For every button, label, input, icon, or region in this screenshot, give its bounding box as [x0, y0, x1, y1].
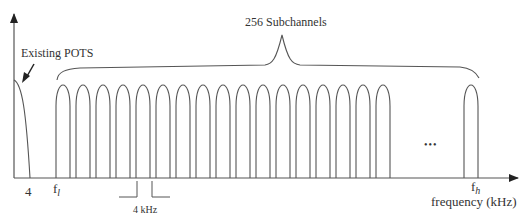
subchannel-hump: [296, 85, 310, 178]
subchannels-brace: [57, 35, 479, 80]
subchannel-hump: [316, 85, 330, 178]
pots-label: Existing POTS: [21, 46, 93, 60]
x-axis-label: frequency (kHz): [431, 194, 517, 209]
subchannel-hump: [136, 85, 150, 178]
subchannel-hump: [76, 85, 90, 178]
tick-label-f-low: fl: [53, 181, 60, 198]
ellipsis-more-subchannels: •••: [424, 139, 438, 150]
subchannel-hump: [236, 85, 250, 178]
subchannel-hump: [116, 85, 130, 178]
pots-band-curve: [14, 80, 30, 178]
subchannel-hump: [176, 85, 190, 178]
spacing-bracket-left: [119, 181, 137, 197]
subchannel-hump: [256, 85, 270, 178]
f-low-subscript: l: [57, 187, 60, 198]
subchannel-hump: [196, 85, 210, 178]
subchannel-hump: [96, 85, 110, 178]
spacing-label: 4 kHz: [133, 204, 158, 215]
subchannel-humps: [56, 85, 478, 178]
subchannel-hump: [156, 85, 170, 178]
tick-label-4: 4: [25, 184, 32, 199]
subchannel-hump: [464, 85, 478, 178]
subchannels-title: 256 Subchannels: [245, 15, 327, 29]
subchannel-hump: [336, 85, 350, 178]
dmt-spectrum-diagram: Existing POTS ••• 256 Subchannels 4 fl f…: [0, 0, 529, 222]
subchannel-hump: [216, 85, 230, 178]
subchannel-hump: [356, 85, 370, 178]
subchannel-hump: [376, 85, 390, 178]
subchannel-hump: [56, 85, 70, 178]
subchannel-hump: [276, 85, 290, 178]
spacing-bracket-right: [152, 181, 170, 197]
